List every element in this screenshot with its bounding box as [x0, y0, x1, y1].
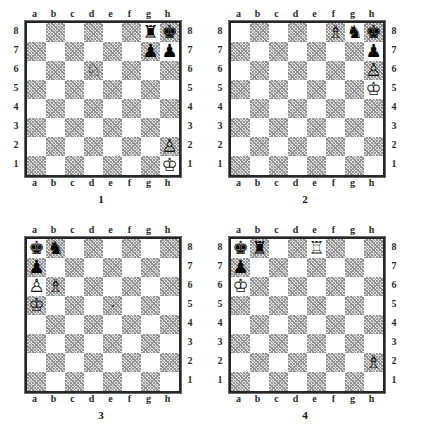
square-a6[interactable] — [27, 61, 46, 80]
square-c2[interactable] — [65, 137, 84, 156]
square-g1[interactable] — [345, 372, 364, 391]
square-e2[interactable] — [307, 137, 326, 156]
square-g6[interactable] — [141, 277, 160, 296]
square-c8[interactable] — [65, 239, 84, 258]
square-g7[interactable] — [345, 42, 364, 61]
white-pawn-a6[interactable]: ♙ — [27, 277, 46, 296]
square-d6[interactable] — [84, 277, 103, 296]
square-f6[interactable] — [122, 277, 141, 296]
square-g4[interactable] — [345, 99, 364, 118]
square-e7[interactable] — [103, 258, 122, 277]
square-b2[interactable] — [250, 137, 269, 156]
square-h8[interactable]: ♚ — [160, 23, 179, 42]
black-king-a8[interactable]: ♚ — [231, 239, 250, 258]
white-king-a5[interactable]: ♔ — [27, 296, 46, 315]
square-c3[interactable] — [65, 334, 84, 353]
square-c1[interactable] — [65, 372, 84, 391]
square-c3[interactable] — [65, 118, 84, 137]
square-b1[interactable] — [250, 372, 269, 391]
square-d2[interactable] — [288, 353, 307, 372]
square-d4[interactable] — [84, 99, 103, 118]
square-f1[interactable] — [122, 156, 141, 175]
square-c8[interactable] — [269, 23, 288, 42]
square-g6[interactable] — [141, 61, 160, 80]
square-a4[interactable] — [231, 315, 250, 334]
square-h4[interactable] — [364, 315, 383, 334]
square-a8[interactable]: ♚ — [231, 239, 250, 258]
square-e8[interactable] — [103, 239, 122, 258]
square-g1[interactable] — [141, 156, 160, 175]
square-d4[interactable] — [288, 99, 307, 118]
square-d3[interactable] — [84, 118, 103, 137]
square-h1[interactable] — [160, 372, 179, 391]
square-g3[interactable] — [141, 118, 160, 137]
square-e8[interactable]: ♖ — [307, 239, 326, 258]
square-g3[interactable] — [141, 334, 160, 353]
square-d5[interactable] — [288, 296, 307, 315]
square-g5[interactable] — [345, 296, 364, 315]
square-f4[interactable] — [122, 99, 141, 118]
square-h7[interactable] — [160, 258, 179, 277]
square-d8[interactable] — [288, 239, 307, 258]
white-bishop-f8[interactable]: ♗ — [326, 23, 345, 42]
square-c6[interactable] — [269, 61, 288, 80]
square-d3[interactable] — [84, 334, 103, 353]
square-g2[interactable] — [345, 353, 364, 372]
square-c7[interactable] — [65, 258, 84, 277]
square-e6[interactable] — [103, 61, 122, 80]
square-d5[interactable] — [288, 80, 307, 99]
square-b7[interactable] — [46, 42, 65, 61]
square-b7[interactable] — [46, 258, 65, 277]
square-a3[interactable] — [27, 334, 46, 353]
square-f7[interactable] — [326, 258, 345, 277]
square-b4[interactable] — [46, 315, 65, 334]
white-pawn-h2[interactable]: ♙ — [160, 137, 179, 156]
square-h3[interactable] — [364, 118, 383, 137]
square-h2[interactable] — [364, 137, 383, 156]
square-a8[interactable]: ♚ — [27, 239, 46, 258]
square-f3[interactable] — [326, 118, 345, 137]
square-e8[interactable] — [103, 23, 122, 42]
square-b5[interactable] — [250, 296, 269, 315]
square-h3[interactable] — [160, 334, 179, 353]
square-g5[interactable] — [141, 296, 160, 315]
square-d6[interactable] — [288, 277, 307, 296]
square-h4[interactable] — [160, 315, 179, 334]
black-pawn-h7[interactable]: ♟ — [160, 42, 179, 61]
square-d5[interactable] — [84, 80, 103, 99]
square-e3[interactable] — [103, 118, 122, 137]
square-b6[interactable] — [250, 277, 269, 296]
square-h7[interactable]: ♟ — [364, 42, 383, 61]
square-g2[interactable] — [141, 137, 160, 156]
square-g3[interactable] — [345, 118, 364, 137]
square-a3[interactable] — [231, 334, 250, 353]
square-f8[interactable]: ♗ — [326, 23, 345, 42]
square-a5[interactable] — [231, 296, 250, 315]
square-d4[interactable] — [288, 315, 307, 334]
square-h3[interactable] — [364, 334, 383, 353]
square-b2[interactable] — [46, 353, 65, 372]
square-h2[interactable] — [160, 353, 179, 372]
square-h1[interactable] — [364, 372, 383, 391]
square-f5[interactable] — [326, 296, 345, 315]
square-a6[interactable] — [231, 61, 250, 80]
black-knight-g8[interactable]: ♞ — [345, 23, 364, 42]
square-g6[interactable] — [345, 61, 364, 80]
square-c7[interactable] — [269, 42, 288, 61]
board-grid[interactable]: ♗♞♚♟♙♔ — [229, 21, 385, 177]
square-d2[interactable] — [84, 353, 103, 372]
black-pawn-a7[interactable]: ♟ — [27, 258, 46, 277]
black-king-h8[interactable]: ♚ — [364, 23, 383, 42]
square-a3[interactable] — [231, 118, 250, 137]
square-e7[interactable] — [307, 42, 326, 61]
square-d7[interactable] — [84, 42, 103, 61]
square-b1[interactable] — [46, 372, 65, 391]
square-h4[interactable] — [364, 99, 383, 118]
square-h1[interactable] — [364, 156, 383, 175]
square-g8[interactable] — [345, 239, 364, 258]
square-c4[interactable] — [65, 315, 84, 334]
square-h8[interactable] — [364, 239, 383, 258]
white-king-h5[interactable]: ♔ — [364, 80, 383, 99]
square-d8[interactable] — [288, 23, 307, 42]
square-e6[interactable] — [103, 277, 122, 296]
